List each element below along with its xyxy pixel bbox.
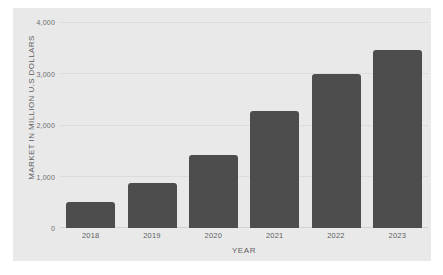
y-tick-label-4000: 4,000 xyxy=(9,19,55,26)
x-tick-label-2019: 2019 xyxy=(121,231,182,240)
bar-2020[interactable] xyxy=(189,155,238,228)
bars-layer xyxy=(60,22,428,228)
x-tick-label-2022: 2022 xyxy=(305,231,366,240)
y-axis-tick-labels: 4,000 3,000 2,000 1,000 0 xyxy=(8,22,55,228)
y-tick-label-2000: 2,000 xyxy=(9,122,55,129)
y-tick-label-3000: 3,000 xyxy=(9,70,55,77)
bar-2023[interactable] xyxy=(373,50,422,228)
x-tick-label-2020: 2020 xyxy=(183,231,244,240)
plot-area xyxy=(60,22,428,228)
x-axis-title: YEAR xyxy=(60,246,428,255)
bar-2022[interactable] xyxy=(312,74,361,228)
x-tick-label-2021: 2021 xyxy=(244,231,305,240)
x-axis-tick-labels: 2018 2019 2020 2021 2022 2023 xyxy=(60,231,428,245)
y-tick-label-1000: 1,000 xyxy=(9,173,55,180)
x-tick-label-2023: 2023 xyxy=(367,231,428,240)
chart-plot-panel: MARKET IN MILLION U.S DOLLARS 4,000 3,00… xyxy=(13,8,431,261)
bar-2021[interactable] xyxy=(250,111,299,228)
bar-2019[interactable] xyxy=(128,183,177,228)
bar-2018[interactable] xyxy=(66,202,115,228)
x-tick-label-2018: 2018 xyxy=(60,231,121,240)
y-tick-label-0: 0 xyxy=(9,225,55,232)
bar-chart-figure: MARKET IN MILLION U.S DOLLARS 4,000 3,00… xyxy=(0,0,443,275)
